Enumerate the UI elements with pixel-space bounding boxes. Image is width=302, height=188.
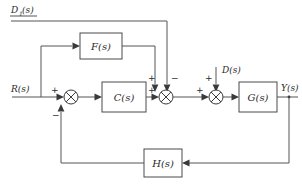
disturbance-top-label-tail: (s) — [22, 5, 34, 15]
disturbance-mid-label: D(s) — [221, 65, 241, 75]
sign-sum2-forward: + — [148, 85, 156, 95]
block-H-label: H(s) — [151, 158, 174, 169]
summing-junction-1 — [64, 90, 78, 104]
block-G-label: G(s) — [248, 92, 269, 103]
summing-junction-3 — [209, 90, 223, 104]
diagram-svg: F(s) C(s) — [0, 0, 302, 188]
sign-sum2-feedforward: + — [148, 73, 156, 83]
sum2-to-sum3-path — [173, 94, 209, 101]
output-label: Y(s) — [281, 83, 299, 93]
block-diagram-canvas: F(s) C(s) — [0, 0, 302, 188]
sign-sum1-reference: + — [51, 85, 59, 95]
sum1-to-C-path — [78, 94, 102, 101]
sign-sum3-forward: + — [196, 85, 204, 95]
disturbance-mid-path — [213, 67, 220, 92]
output-path — [277, 96, 298, 99]
reference-label: R(s) — [10, 84, 30, 94]
sum3-to-G-path — [223, 94, 239, 101]
block-H: H(s) — [144, 149, 182, 177]
arrowhead-into-G — [232, 94, 240, 101]
block-F-label: F(s) — [90, 41, 111, 52]
sign-sum3-disturbance: + — [205, 73, 213, 83]
arrowhead-into-C — [95, 94, 103, 101]
summing-junction-2 — [159, 90, 173, 104]
block-G: G(s) — [239, 82, 277, 112]
arrowhead-into-F — [73, 43, 81, 50]
block-C: C(s) — [102, 82, 146, 112]
sign-sum2-disturbance-top: − — [171, 73, 179, 83]
arrowhead-into-H — [182, 160, 190, 167]
block-C-label: C(s) — [114, 92, 135, 103]
disturbance-top-label-base: D — [10, 5, 18, 15]
block-F: F(s) — [80, 33, 122, 59]
sign-sum1-feedback: − — [52, 110, 60, 120]
